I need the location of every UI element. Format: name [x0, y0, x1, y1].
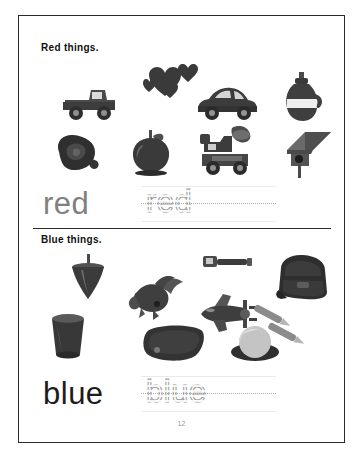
- hearts-icon: [143, 62, 199, 98]
- section-heading-blue: Blue things.: [41, 234, 102, 245]
- car-icon: [195, 84, 259, 122]
- bird-icon: [127, 268, 189, 322]
- picture-group-blue: [33, 248, 333, 370]
- trace-word-blue: blue: [146, 371, 207, 413]
- word-label-blue: blue: [43, 374, 104, 414]
- cup-icon: [47, 312, 89, 362]
- apple-icon: [129, 128, 173, 176]
- picture-group-red: [33, 56, 333, 178]
- heading-things-word-red: things.: [64, 42, 99, 53]
- section-heading-red: Red things.: [41, 42, 99, 53]
- heading-color-word-blue: Blue: [41, 234, 64, 245]
- tracing-guide-red[interactable]: red: [141, 182, 276, 226]
- writing-row-blue[interactable]: blue blue: [33, 372, 333, 420]
- spinning-top-icon: [69, 254, 109, 302]
- word-label-red: red: [43, 184, 89, 224]
- truck-icon: [61, 86, 119, 122]
- section-divider: [33, 228, 331, 229]
- rose-icon: [51, 132, 103, 174]
- tracing-guide-blue[interactable]: blue: [141, 372, 276, 416]
- heading-color-word-red: Red: [41, 42, 61, 53]
- birdhouse-icon: [285, 128, 333, 178]
- page-number: 12: [19, 420, 344, 427]
- worksheet-page: Red things.: [18, 15, 345, 443]
- trace-word-red: red: [146, 181, 192, 223]
- bottle-icon: [281, 70, 325, 124]
- heading-things-word-blue: things.: [67, 234, 102, 245]
- flashlight-icon: [201, 252, 253, 272]
- writing-row-red[interactable]: red red: [33, 182, 333, 230]
- fire-engine-icon: [198, 122, 260, 178]
- backpack-icon: [273, 252, 331, 302]
- ball-icon: [229, 320, 281, 362]
- mat-icon: [139, 322, 209, 364]
